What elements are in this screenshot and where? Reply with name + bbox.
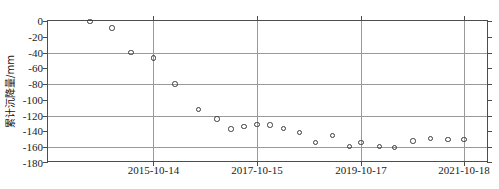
data-point	[214, 116, 219, 121]
y-axis-tick-label: -140	[23, 126, 43, 137]
y-axis-tick-right	[487, 53, 492, 54]
gridline-horizontal	[48, 53, 487, 54]
data-point	[313, 140, 318, 145]
data-point	[241, 124, 246, 129]
y-axis-tick-right	[487, 162, 492, 163]
y-axis-tick-label: -40	[28, 47, 43, 58]
data-point	[128, 50, 133, 55]
gridline-horizontal	[48, 116, 487, 117]
y-axis-tick-label: -120	[23, 110, 43, 121]
data-point	[281, 126, 286, 131]
y-axis-tick	[43, 131, 48, 132]
y-axis-title-text: 累计沉降量/mm	[2, 55, 17, 128]
data-point	[330, 133, 335, 138]
data-point	[428, 136, 433, 141]
gridline-vertical	[257, 21, 258, 161]
y-axis-tick-label: -60	[28, 63, 43, 74]
x-axis-tick-label: 2019-10-17	[335, 165, 386, 176]
y-axis-tick	[43, 68, 48, 69]
data-point	[196, 107, 201, 112]
data-point	[410, 138, 415, 143]
y-axis-tick-right	[487, 147, 492, 148]
data-point	[172, 81, 177, 86]
data-point	[358, 140, 363, 145]
y-axis-tick	[43, 147, 48, 148]
y-axis-tick-right	[487, 131, 492, 132]
y-axis-tick	[43, 21, 48, 22]
y-axis-tick	[43, 116, 48, 117]
y-axis-tick	[43, 53, 48, 54]
y-axis-tick	[43, 37, 48, 38]
data-point	[228, 126, 233, 131]
y-axis-tick-label: -100	[23, 94, 43, 105]
data-point	[392, 145, 397, 150]
y-axis-tick-right	[487, 68, 492, 69]
data-point	[267, 122, 272, 127]
y-axis-tick-label: 0	[38, 16, 44, 27]
x-axis-tick-top	[464, 16, 465, 21]
y-axis-tick-right	[487, 116, 492, 117]
gridline-horizontal	[48, 147, 487, 148]
y-axis-tick	[43, 162, 48, 163]
y-axis-tick-label: -80	[28, 79, 43, 90]
plot-area: 0-20-40-60-80-100-120-140-160-180 2015-1…	[47, 20, 488, 162]
gridline-vertical	[153, 21, 154, 161]
data-point	[347, 144, 352, 149]
x-axis-tick-label: 2021-10-18	[438, 165, 489, 176]
data-point	[297, 130, 302, 135]
x-axis-tick-top	[361, 16, 362, 21]
x-axis-tick-top	[257, 16, 258, 21]
y-axis-tick-label: -20	[28, 31, 43, 42]
y-axis-tick-right	[487, 37, 492, 38]
data-point	[377, 144, 382, 149]
y-axis-title: 累计沉降量/mm	[2, 20, 16, 162]
data-point	[254, 122, 259, 127]
y-axis-tick-right	[487, 21, 492, 22]
x-axis-tick-label: 2017-10-15	[231, 165, 282, 176]
x-axis-tick-top	[153, 16, 154, 21]
data-point	[461, 137, 466, 142]
data-point	[151, 55, 156, 60]
chart-figure: 累计沉降量/mm 0-20-40-60-80-100-120-140-160-1…	[0, 0, 499, 189]
data-point	[87, 19, 92, 24]
y-axis-tick	[43, 100, 48, 101]
data-point	[109, 25, 114, 30]
y-axis-tick-label: -160	[23, 142, 43, 153]
data-point	[445, 137, 450, 142]
gridline-horizontal	[48, 84, 487, 85]
y-axis-tick	[43, 84, 48, 85]
x-axis-tick-label: 2015-10-14	[128, 165, 179, 176]
y-axis-tick-label: -180	[23, 158, 43, 169]
y-axis-tick-right	[487, 84, 492, 85]
y-axis-tick-right	[487, 100, 492, 101]
